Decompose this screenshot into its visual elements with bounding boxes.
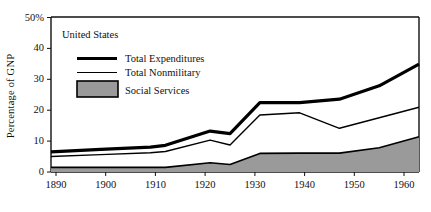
y-tick-label-40: 40 — [34, 42, 45, 53]
legend-gray-box-swatch — [77, 81, 118, 97]
x-tick-label-1960: 1960 — [394, 179, 415, 190]
legend-label-total-expenditures: Total Expenditures — [125, 53, 204, 64]
y-tick-label-30: 30 — [34, 73, 45, 84]
x-tick-label-1890: 1890 — [46, 179, 67, 190]
x-tick-label-1910: 1910 — [145, 179, 166, 190]
chart-container: Percentage of GNP 50% 40 30 20 10 0 — [0, 0, 431, 212]
legend-label-social-services: Social Services — [125, 85, 189, 96]
y-tick-label-10: 10 — [34, 135, 45, 146]
y-tick-label-50: 50% — [25, 12, 45, 23]
y-tick-label-0: 0 — [39, 166, 44, 177]
x-tick-label-1940: 1940 — [294, 179, 315, 190]
gnp-expenditures-chart: Percentage of GNP 50% 40 30 20 10 0 — [0, 0, 431, 212]
y-axis-title: Percentage of GNP — [5, 54, 16, 138]
x-tick-label-1950: 1950 — [344, 179, 365, 190]
x-tick-label-1900: 1900 — [95, 179, 116, 190]
legend-label-total-nonmilitary: Total Nonmilitary — [125, 67, 201, 78]
x-tick-label-1920: 1920 — [195, 179, 216, 190]
y-tick-label-20: 20 — [34, 104, 45, 115]
legend-region-label: United States — [62, 29, 118, 40]
x-tick-label-1930: 1930 — [244, 179, 265, 190]
